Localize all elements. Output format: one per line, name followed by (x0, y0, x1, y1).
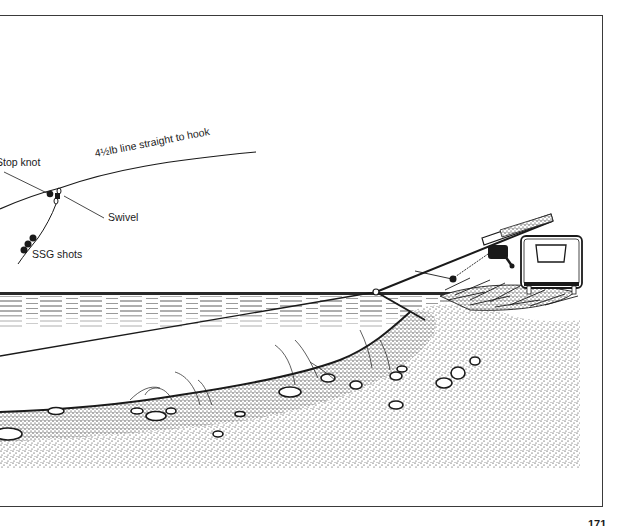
swivel-label: Swivel (108, 211, 138, 223)
stop-knot-label: Stop knot (0, 156, 40, 168)
page-number: 171 (588, 519, 606, 526)
box-handle (536, 245, 566, 262)
stop-knot-leader (4, 172, 47, 193)
fishing-rig-illustration (0, 0, 627, 526)
swivel-icon (54, 188, 61, 204)
reel (488, 245, 515, 269)
swivel-leader (64, 196, 104, 218)
tackle-box (521, 236, 582, 294)
stop-knot-icon (47, 191, 54, 198)
bite-indicator-icon (450, 276, 457, 283)
ssg-shots-label: SSG shots (32, 248, 82, 260)
